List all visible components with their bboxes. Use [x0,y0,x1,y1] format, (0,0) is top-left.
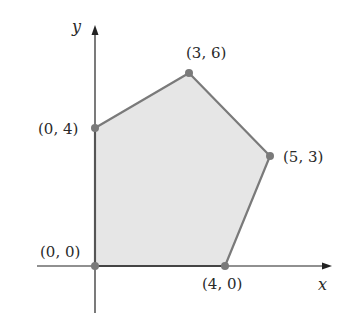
vertex-label: (5, 3) [283,148,323,166]
x-axis-arrow-icon [322,263,332,270]
vertex-point [266,152,274,160]
vertex-label: (0, 4) [38,120,78,138]
feasible-region [95,73,270,266]
vertex-point [91,262,99,270]
vertex-point [185,69,193,77]
y-axis-arrow-icon [92,25,99,35]
vertex-label: (0, 0) [40,243,80,261]
vertex-point [221,262,229,270]
vertex-point [91,124,99,132]
y-axis-label: y [71,17,82,36]
x-axis-label: x [318,275,327,294]
vertex-label: (4, 0) [202,275,242,293]
vertex-label: (3, 6) [186,44,226,62]
chart-canvas: (0, 0) (4, 0) (5, 3) (3, 6) (0, 4) y x [0,0,345,323]
